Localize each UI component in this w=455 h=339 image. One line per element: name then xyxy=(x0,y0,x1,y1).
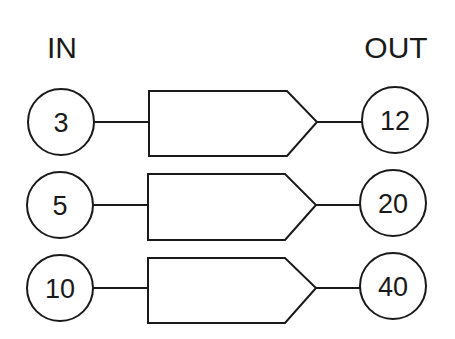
output-value: 20 xyxy=(378,189,408,219)
machine-row-3: 10 40 xyxy=(27,253,426,323)
machine-row-2: 5 20 xyxy=(27,170,426,240)
input-value: 3 xyxy=(53,108,68,138)
machine-row-1: 3 12 xyxy=(28,87,428,156)
machine-box xyxy=(148,258,316,323)
machine-box xyxy=(148,174,316,240)
output-value: 12 xyxy=(380,106,410,136)
output-header: OUT xyxy=(364,31,427,64)
input-value: 5 xyxy=(52,191,67,221)
output-value: 40 xyxy=(378,272,408,302)
machine-box xyxy=(149,91,317,156)
function-machine-diagram: IN OUT 3 12 5 20 10 40 xyxy=(0,0,455,339)
input-header: IN xyxy=(47,31,77,64)
input-value: 10 xyxy=(45,274,75,304)
